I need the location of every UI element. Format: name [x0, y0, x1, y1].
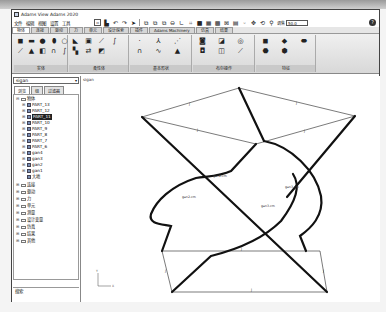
box-icon[interactable]: ◼ — [17, 38, 24, 45]
extrusion-icon[interactable]: ◧ — [39, 48, 46, 55]
tab-simulation[interactable]: 仿真 — [196, 27, 214, 33]
coordinate-icon[interactable]: ∟ — [178, 19, 185, 26]
revolution-icon[interactable]: ∩ — [50, 48, 57, 55]
flex-spring-icon[interactable]: ∫ — [111, 38, 118, 45]
folder-icon — [21, 184, 26, 187]
shell-icon[interactable]: ⬢ — [281, 48, 288, 55]
model-canvas[interactable]: sigan — [81, 76, 380, 302]
fillet-icon[interactable]: ◆ — [281, 38, 288, 45]
tab-motions[interactable]: 驱动 — [50, 27, 68, 33]
tab-adams-machinery[interactable]: Adams Machinery — [149, 27, 195, 33]
undo-icon[interactable]: ↶ — [112, 19, 119, 26]
menu-file[interactable]: 文件 — [14, 20, 22, 26]
folder-icon — [21, 98, 26, 101]
point-icon[interactable]: ◦ — [241, 19, 248, 26]
rotate-icon[interactable]: ⟲ — [259, 19, 266, 26]
flex-import-icon[interactable]: ◣ — [72, 38, 79, 45]
chain-icon[interactable]: ⟋ — [237, 48, 244, 55]
tree-item-motions[interactable]: ⊞驱动 — [16, 189, 35, 195]
menu-edit[interactable]: 编辑 — [26, 20, 34, 26]
split-icon[interactable]: ◎ — [237, 38, 244, 45]
window-title: Adams View Adams 2020 — [21, 12, 78, 17]
arc-icon[interactable]: ∩ — [136, 48, 143, 55]
search-status[interactable]: 搜索 — [13, 287, 79, 295]
tree-item-other[interactable]: ⊞其他 — [16, 238, 35, 244]
model-name-label: sigan — [83, 77, 94, 82]
line-icon[interactable]: ⟋ — [17, 48, 24, 55]
redo-icon[interactable]: ↷ — [121, 19, 128, 26]
save-icon[interactable]: ▙ — [103, 19, 110, 26]
model-select[interactable]: sigan ▾ — [13, 77, 79, 84]
view-iso-icon[interactable]: ⊠ — [223, 19, 230, 26]
group-label-solids: 实体 — [14, 65, 67, 72]
render-icon[interactable]: ■ — [196, 19, 203, 26]
group-label-construction: 基本形状 — [130, 65, 191, 72]
tree-item-elements[interactable]: ⊞单元 — [16, 203, 35, 209]
svg-text:J: J — [164, 269, 166, 273]
ribbon-group-construction: · ⅄ ⋰ ∩ ∿ ▲ 基本形状 — [130, 35, 192, 72]
tab-bodies[interactable]: 物体 — [12, 27, 30, 33]
tree-item-results[interactable]: ⊞结果 — [16, 231, 35, 237]
tree-item-measures[interactable]: ⊞测量 — [16, 210, 35, 216]
menu-view[interactable]: 视图 — [38, 20, 46, 26]
help-icon[interactable]: ? — [369, 19, 376, 26]
flex-viewflex-icon[interactable]: ▣ — [85, 38, 92, 45]
link-icon[interactable]: ▬ — [28, 38, 35, 45]
zoom-magnifier-icon[interactable]: ⚲ — [268, 19, 275, 26]
svg-text:J: J — [295, 101, 297, 105]
tree-item-connectors[interactable]: ⊞连接 — [16, 182, 35, 188]
flex-swap-icon[interactable]: ⇄ — [85, 48, 92, 55]
view-front-icon[interactable]: ▦ — [205, 19, 212, 26]
polyline-icon[interactable]: ⋰ — [174, 38, 181, 45]
svg-text:J: J — [250, 288, 252, 292]
tab-plugins[interactable]: 插件 — [130, 27, 148, 33]
tab-connectors[interactable]: 连接 — [31, 27, 49, 33]
ribbon-group-flexible: ◣ ▣ ⟋ ∫ ▚ ⇄ ◩ 柔性体 — [69, 35, 129, 72]
sphere-icon[interactable]: ⬮ — [50, 38, 57, 45]
cylinder-icon[interactable]: ● — [39, 38, 46, 45]
thick-links — [142, 88, 355, 292]
torus-icon[interactable]: ○ — [61, 38, 68, 45]
new-icon[interactable]: ▫ — [94, 19, 101, 26]
translate-icon[interactable]: ✥ — [250, 19, 257, 26]
frustum-icon[interactable]: ▲ — [28, 48, 35, 55]
folder-icon — [21, 233, 26, 236]
union-icon[interactable]: ◙ — [199, 38, 206, 45]
flex-mesh-icon[interactable]: ◩ — [98, 48, 105, 55]
merge-icon[interactable]: ◘ — [199, 48, 206, 55]
tab-elements[interactable]: 单元 — [84, 27, 102, 33]
zoom-value-field[interactable]: 50.0 — [286, 20, 308, 26]
point-icon[interactable]: ⅄ — [155, 38, 162, 45]
spline-icon[interactable]: ∫ — [61, 48, 68, 55]
zoom-icon[interactable]: ⧉ — [160, 19, 167, 26]
cut-icon[interactable]: ◫ — [218, 48, 225, 55]
chamfer-icon[interactable]: ◼ — [262, 38, 269, 45]
chevron-down-icon[interactable]: ▾ — [75, 78, 77, 83]
flex-beam-icon[interactable]: ⟋ — [98, 38, 105, 45]
view-side-icon[interactable]: ▩ — [214, 19, 221, 26]
zoom-fit-icon[interactable]: ⧉ — [151, 19, 158, 26]
flex-rigid-icon[interactable]: ▚ — [72, 48, 79, 55]
menu-settings[interactable]: 设置 — [50, 20, 58, 26]
marker-icon[interactable]: · — [136, 38, 143, 45]
intersect-icon[interactable]: ◪ — [218, 38, 225, 45]
view-icon[interactable]: ⊖ — [169, 19, 176, 26]
model-tree: ⊟物体 ⊞PART_13 ⊞PART_12 ⊞PART_11 ⊞PART_10 … — [13, 94, 79, 280]
menu-tools[interactable]: 工具 — [62, 20, 70, 26]
tab-design-exploration[interactable]: 设计探索 — [103, 27, 129, 33]
boss-icon[interactable]: ⬣ — [262, 48, 269, 55]
view-top-icon[interactable]: ▤ — [232, 19, 239, 26]
hole-icon[interactable]: ⬬ — [300, 38, 307, 45]
zoom-box-icon[interactable]: ⧉ — [142, 19, 149, 26]
tree-item-forces[interactable]: ⊞力 — [16, 196, 31, 202]
tab-forces[interactable]: 力 — [69, 27, 83, 33]
tree-item-ground[interactable]: 大地 — [27, 174, 40, 180]
model-browser: sigan ▾ 浏览 组 过滤器 ⊟物体 ⊞PART_13 ⊞PART_12 ⊞… — [12, 76, 81, 302]
plane-icon[interactable]: ▲ — [174, 48, 181, 55]
select-pointer-icon[interactable]: ➤ — [130, 19, 137, 26]
tree-item-design-variables[interactable]: ⊞设计变量 — [16, 217, 43, 223]
grid-icon[interactable]: ⌗ — [187, 19, 194, 26]
spline-curve-icon[interactable]: ∿ — [155, 48, 162, 55]
tab-results[interactable]: 结果 — [215, 27, 233, 33]
tree-item-simulations[interactable]: ⊞仿真 — [16, 224, 35, 230]
